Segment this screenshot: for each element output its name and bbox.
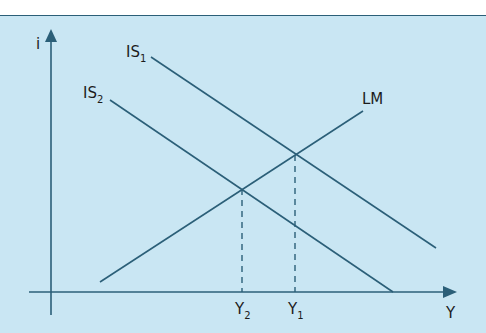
is1-curve (151, 57, 436, 248)
y-axis-arrow-icon (45, 29, 57, 42)
y2-tick-label: Y2 (234, 300, 251, 321)
lm-curve (100, 111, 363, 282)
x-axis-label: Y (445, 304, 456, 322)
x-axis-arrow-icon (443, 286, 457, 298)
y1-tick-label: Y1 (287, 300, 304, 321)
y-axis-label: i (36, 35, 40, 53)
is2-curve (110, 100, 393, 292)
is2-label: IS2 (83, 84, 103, 105)
lm-label: LM (362, 90, 383, 108)
is1-label: IS1 (126, 43, 146, 64)
